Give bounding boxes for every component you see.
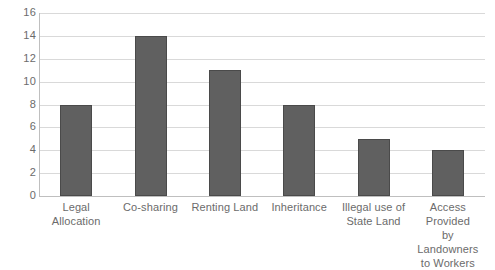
x-tick-label-line: Renting Land	[188, 200, 262, 214]
y-axis-tick-labels: 1614121086420	[0, 0, 36, 255]
y-tick-label-2: 2	[6, 167, 36, 178]
x-tick-label-line: Legal Allocation	[39, 200, 113, 228]
y-tick-label-4: 4	[6, 144, 36, 155]
x-tick-label-line: to Workers	[411, 256, 485, 270]
bar	[358, 139, 390, 196]
y-tick-label-8: 8	[6, 99, 36, 110]
y-tick-label-12: 12	[6, 53, 36, 64]
bar	[432, 150, 464, 196]
bar	[60, 105, 92, 197]
x-tick-label: Legal Allocation	[39, 200, 113, 228]
x-tick-label-line: by Landowners	[411, 228, 485, 256]
x-tick-label: Inheritance	[262, 200, 336, 214]
bar	[135, 36, 167, 196]
bars-layer	[39, 13, 485, 196]
x-tick-label-line: Access Provided	[411, 200, 485, 228]
y-tick-label-0: 0	[6, 190, 36, 201]
bar	[209, 70, 241, 196]
y-tick-label-16: 16	[6, 7, 36, 18]
x-axis-category-labels: Legal AllocationCo-sharingRenting LandIn…	[39, 200, 485, 255]
gridline-0	[39, 196, 485, 197]
y-tick-label-6: 6	[6, 121, 36, 132]
x-tick-label: Co-sharing	[113, 200, 187, 214]
x-tick-label-line: Illegal use of	[336, 200, 410, 214]
x-tick-label-line: State Land	[336, 214, 410, 228]
bar	[283, 105, 315, 197]
y-tick-label-10: 10	[6, 76, 36, 87]
x-tick-label: Illegal use ofState Land	[336, 200, 410, 228]
x-tick-label-line: Co-sharing	[113, 200, 187, 214]
x-tick-label-line: Inheritance	[262, 200, 336, 214]
x-tick-label: Renting Land	[188, 200, 262, 214]
y-tick-label-14: 14	[6, 30, 36, 41]
x-tick-label: Access Providedby Landownersto Workers	[411, 200, 485, 270]
